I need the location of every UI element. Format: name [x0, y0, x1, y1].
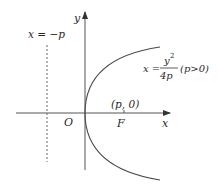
directrix-label: x = −p	[28, 28, 65, 40]
parabola-diagram: y x O F (p, 0) x = −p x = y 2 4p (p>0)	[0, 0, 220, 184]
equation-denominator: 4p	[159, 70, 173, 81]
y-axis-label: y	[73, 12, 81, 25]
x-axis-label: x	[162, 117, 169, 130]
equation-numerator: y	[163, 55, 170, 66]
equation-condition: (p>0)	[180, 63, 209, 74]
equation-exponent: 2	[170, 52, 174, 60]
equation-lhs: x =	[143, 63, 160, 74]
focus-label: F	[116, 117, 125, 130]
focus-coord-label: (p, 0)	[111, 98, 139, 110]
origin-label: O	[64, 116, 73, 129]
